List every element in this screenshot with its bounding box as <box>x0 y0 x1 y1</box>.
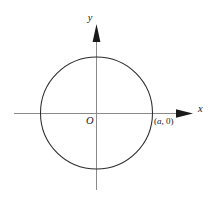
y-axis-arrowhead <box>93 24 101 42</box>
point-a-zero-label: (a, 0) <box>154 116 174 126</box>
figure-canvas: y x O (a, 0) <box>0 0 210 197</box>
origin-label: O <box>86 115 94 126</box>
y-axis-label: y <box>87 12 93 23</box>
y-axis-group <box>93 24 101 190</box>
x-axis-label: x <box>197 103 203 114</box>
circle-diagram: y x O (a, 0) <box>0 0 210 197</box>
x-axis-arrowhead <box>176 109 193 117</box>
point-label-rest: , 0) <box>162 116 174 126</box>
